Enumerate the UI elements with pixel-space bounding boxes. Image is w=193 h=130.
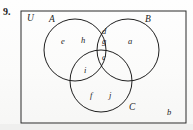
region-label-a: a [128,37,132,46]
region-label-h: h [81,36,85,45]
region-label-j: j [109,91,111,100]
label-set-c: C [129,103,135,113]
region-label-e: e [61,37,65,46]
region-label-b: b [167,108,171,117]
label-set-a: A [49,15,55,25]
region-label-g: g [102,37,106,46]
region-label-c: c [102,53,106,62]
region-label-d: d [102,27,106,36]
label-universal-set: U [27,14,34,24]
region-label-f: f [90,91,92,100]
worksheet-page: 9. U A B C e h d g a c i f j b [0,0,193,130]
label-set-b: B [145,15,151,25]
region-label-i: i [84,66,86,75]
